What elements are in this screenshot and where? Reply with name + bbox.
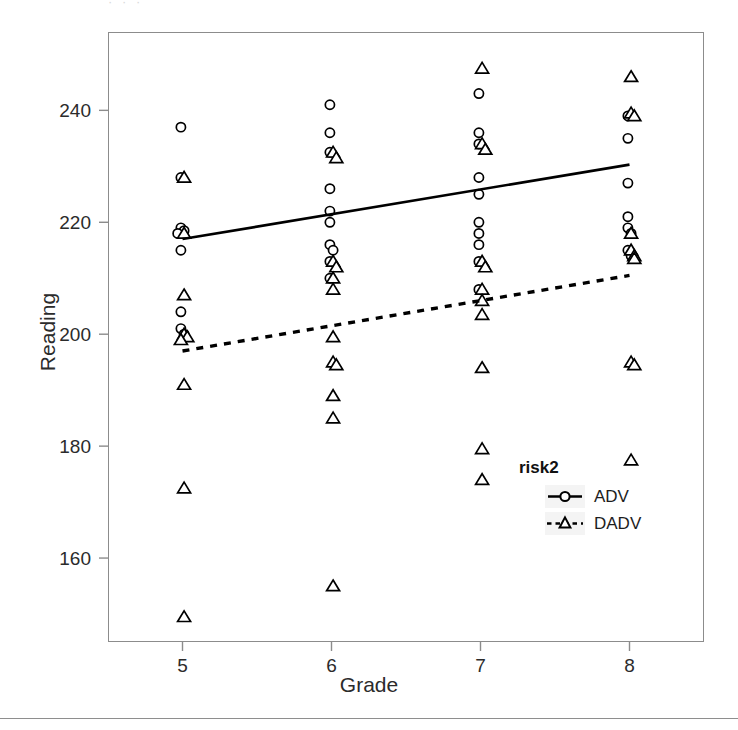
data-point-circle — [176, 123, 185, 132]
data-point-circle — [474, 229, 483, 238]
y-tick-label: 180 — [31, 437, 91, 456]
regression-line-dadv — [183, 275, 630, 351]
data-point-circle — [474, 128, 483, 137]
legend-item-dadv[interactable]: DADV — [545, 510, 651, 537]
data-point-triangle — [327, 331, 340, 342]
data-point-circle — [325, 100, 334, 109]
data-point-circle — [325, 218, 334, 227]
data-point-triangle — [625, 71, 638, 82]
x-axis-title: Grade — [0, 673, 738, 697]
data-point-circle — [623, 134, 632, 143]
data-point-circle — [329, 246, 338, 255]
data-point-circle — [474, 240, 483, 249]
legend: risk2 ADV DADV — [519, 459, 651, 537]
data-points-adv — [173, 89, 636, 342]
legend-label-adv: ADV — [594, 488, 629, 505]
data-point-triangle — [327, 580, 340, 591]
legend-rows: ADV DADV — [545, 483, 651, 537]
data-point-circle — [325, 184, 334, 193]
data-point-circle — [176, 307, 185, 316]
data-point-triangle — [327, 283, 340, 294]
data-point-triangle — [327, 390, 340, 401]
data-point-circle — [474, 218, 483, 227]
data-point-circle — [474, 173, 483, 182]
data-point-triangle — [178, 611, 191, 622]
data-point-circle — [474, 89, 483, 98]
page-bottom-rule — [0, 718, 738, 719]
data-point-triangle — [476, 362, 489, 373]
plot-canvas — [0, 0, 738, 730]
data-point-triangle — [178, 379, 191, 390]
legend-label-dadv: DADV — [594, 515, 641, 532]
figure-container: · · · 160180200220240 5678 Grade Reading… — [0, 0, 738, 730]
axis-tick-marks — [99, 110, 630, 651]
legend-title: risk2 — [519, 459, 651, 476]
data-point-triangle — [476, 474, 489, 485]
data-point-circle — [623, 212, 632, 221]
legend-key-circle-solid-icon — [545, 485, 585, 508]
y-tick-label: 240 — [31, 101, 91, 120]
legend-key-triangle-dashed-icon — [545, 512, 585, 535]
data-point-triangle — [476, 309, 489, 320]
data-point-triangle — [178, 289, 191, 300]
legend-item-adv[interactable]: ADV — [545, 483, 651, 510]
y-tick-label: 160 — [31, 549, 91, 568]
data-point-circle — [176, 246, 185, 255]
data-point-circle — [325, 128, 334, 137]
y-axis-title: Reading — [36, 262, 60, 402]
data-point-triangle — [476, 62, 489, 73]
data-point-circle — [623, 179, 632, 188]
data-point-triangle — [327, 412, 340, 423]
data-point-triangle — [476, 443, 489, 454]
data-point-triangle — [178, 482, 191, 493]
y-tick-label: 220 — [31, 213, 91, 232]
regression-line-adv — [183, 165, 630, 239]
regression-lines — [183, 165, 630, 351]
